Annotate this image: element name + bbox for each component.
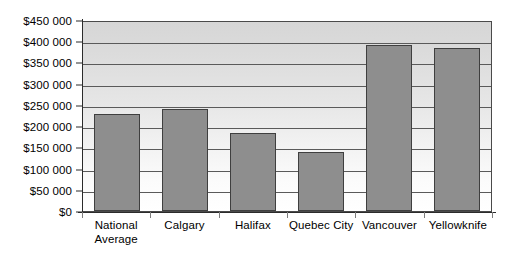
y-axis-tick-label: $150 000 (23, 142, 72, 154)
bar-slot (83, 22, 151, 211)
y-axis-tick-label: $350 000 (23, 57, 72, 69)
bar[interactable] (94, 114, 140, 211)
bar-slot (423, 22, 491, 211)
x-axis-category-labels: National AverageCalgaryHalifaxQuebec Cit… (82, 218, 492, 246)
y-axis-tick-label: $400 000 (23, 36, 72, 48)
y-axis-tick-label: $250 000 (23, 100, 72, 112)
y-axis-line (82, 19, 83, 215)
y-axis-tick-label: $50 000 (30, 185, 72, 197)
y-axis-tick-label: $300 000 (23, 79, 72, 91)
plot-area (82, 21, 492, 212)
bar[interactable] (230, 133, 276, 211)
bar-slot (287, 22, 355, 211)
y-axis-tick-label: $0 (59, 206, 72, 218)
x-axis-tick-mark (492, 212, 493, 218)
bar[interactable] (434, 48, 480, 211)
bar[interactable] (366, 45, 412, 211)
y-axis-labels: $0$50 000$100 000$150 000$200 000$250 00… (0, 0, 78, 268)
bar[interactable] (298, 152, 344, 211)
x-axis-category-label: Halifax (219, 218, 287, 246)
x-axis-category-label: Calgary (150, 218, 218, 246)
bar-slot (355, 22, 423, 211)
x-axis-category-label: National Average (82, 218, 150, 246)
y-axis-tick-label: $200 000 (23, 121, 72, 133)
x-axis-category-label: Yellowknife (424, 218, 492, 246)
bars-layer (83, 22, 491, 211)
x-axis-category-label: Quebec City (287, 218, 355, 246)
x-axis-category-label: Vancouver (355, 218, 423, 246)
bar[interactable] (162, 109, 208, 211)
bar-slot (219, 22, 287, 211)
y-axis-tick-label: $450 000 (23, 15, 72, 27)
y-axis-tick-label: $100 000 (23, 164, 72, 176)
bar-chart: $0$50 000$100 000$150 000$200 000$250 00… (0, 0, 507, 268)
bar-slot (151, 22, 219, 211)
